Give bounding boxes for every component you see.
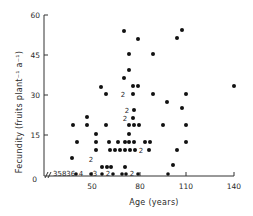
data-point (131, 92, 135, 96)
count-label: 3 (93, 170, 97, 178)
data-point (171, 163, 175, 167)
y-tick-label: 15 (30, 131, 40, 140)
data-point (166, 172, 170, 176)
data-point (127, 68, 131, 72)
count-label: 4 (79, 170, 84, 178)
data-point (131, 116, 135, 120)
data-point (118, 148, 122, 152)
data-point (127, 140, 131, 144)
x-tick-label: 50 (87, 182, 97, 191)
data-point (136, 37, 140, 41)
data-point (122, 29, 126, 33)
data-point (123, 140, 127, 144)
data-point (127, 52, 131, 56)
y-tick-labels: 60 45 30 15 0 (30, 11, 40, 184)
data-point (104, 123, 108, 127)
data-point (100, 172, 104, 176)
data-point (85, 123, 89, 127)
data-point (180, 28, 184, 32)
data-point (147, 148, 151, 152)
count-label: 2 (123, 115, 127, 123)
data-point (184, 140, 188, 144)
data-point (151, 92, 155, 96)
data-point (70, 156, 74, 160)
data-point (175, 36, 179, 40)
data-point (128, 148, 132, 152)
data-point (99, 85, 103, 89)
data-point (104, 92, 108, 96)
data-point (143, 140, 147, 144)
x-tick-label: 140 (227, 182, 242, 191)
data-point (120, 172, 124, 176)
y-tick-label: 45 (30, 51, 40, 60)
y-tick-label: 30 (30, 91, 40, 100)
data-point (116, 140, 120, 144)
scatter-chart: 60 45 30 15 0 50 80 110 140 Age (years) … (0, 0, 253, 216)
data-point (123, 148, 127, 152)
count-label: 2 (139, 147, 143, 155)
data-points (70, 28, 236, 176)
data-point (85, 115, 89, 119)
data-point (127, 123, 131, 127)
x-tick-label: 80 (135, 182, 145, 191)
count-label: 2 (89, 156, 93, 164)
data-point (184, 123, 188, 127)
count-label: 2 (125, 107, 129, 115)
count-label: 2 (121, 91, 125, 99)
data-point (132, 123, 136, 127)
y-tick-label: 0 (32, 175, 37, 184)
y-axis-title: Fecundity (fruits plant⁻¹ a⁻¹) (15, 51, 24, 174)
count-label: 2 (106, 170, 110, 178)
data-point (131, 84, 135, 88)
data-point (148, 140, 152, 144)
axis-break-mark (45, 172, 48, 178)
x-tick-label: 110 (179, 182, 194, 191)
data-point (108, 148, 112, 152)
data-point (137, 123, 141, 127)
data-point (111, 172, 115, 176)
count-label: 2 (130, 170, 134, 178)
data-point (161, 123, 165, 127)
data-point (232, 84, 236, 88)
data-point (165, 100, 169, 104)
data-point (132, 140, 136, 144)
data-point (113, 148, 117, 152)
data-point (107, 140, 111, 144)
zero-row-counts: 35836 (53, 170, 76, 178)
data-point (184, 92, 188, 96)
data-point (136, 172, 140, 176)
data-point (132, 108, 136, 112)
data-point (109, 165, 113, 169)
data-point (122, 76, 126, 80)
y-tick-label: 60 (30, 11, 40, 20)
data-point (151, 52, 155, 56)
data-point (71, 123, 75, 127)
data-point (105, 165, 109, 169)
data-point (175, 148, 179, 152)
data-point (94, 132, 98, 136)
data-point (100, 165, 104, 169)
data-point (75, 140, 79, 144)
data-point (133, 148, 137, 152)
data-point (123, 165, 127, 169)
data-point (180, 106, 184, 110)
data-point (127, 132, 131, 136)
data-point (124, 172, 128, 176)
x-axis-title: Age (years) (129, 198, 179, 207)
axis-break-mark (48, 172, 51, 178)
data-point (94, 140, 98, 144)
data-point (94, 148, 98, 152)
data-point (136, 84, 140, 88)
x-tick-labels: 50 80 110 140 (87, 182, 241, 191)
